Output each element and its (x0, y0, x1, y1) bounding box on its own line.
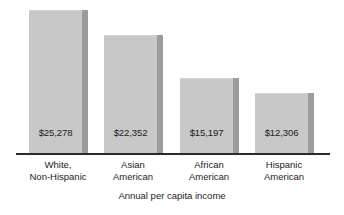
bar-hispanic-american: $12,306 (255, 93, 314, 154)
tick-line-1: Hispanic (266, 159, 302, 170)
x-tick-label-hispanic-american: Hispanic American (241, 159, 327, 182)
tick-line-1: Asian (121, 159, 145, 170)
bar-value-label: $15,197 (180, 127, 233, 138)
x-axis-title: Annual per capita income (0, 190, 344, 201)
bar-value-label: $12,306 (255, 127, 308, 138)
tick-line-2: Non-Hispanic (15, 171, 101, 183)
tick-line-2: American (90, 171, 176, 183)
bar-side-shadow (157, 35, 163, 154)
bar-side-shadow (308, 93, 314, 154)
bar-value-label: $22,352 (104, 127, 157, 138)
bar-african-american: $15,197 (180, 78, 239, 154)
tick-line-1: White, (45, 159, 72, 170)
bar-side-shadow (82, 10, 88, 154)
x-tick-label-asian-american: Asian American (90, 159, 176, 182)
bar-face (180, 78, 233, 155)
x-tick-label-white-non-hispanic: White, Non-Hispanic (15, 159, 101, 182)
bar-white-non-hispanic: $25,278 (29, 10, 88, 154)
bar-asian-american: $22,352 (104, 35, 163, 154)
bar-value-label: $25,278 (29, 127, 82, 138)
x-tick-label-african-american: African American (166, 159, 252, 182)
bar-face (255, 93, 308, 155)
tick-line-2: American (166, 171, 252, 183)
bar-side-shadow (233, 78, 239, 154)
tick-line-1: African (194, 159, 224, 170)
x-axis-line (16, 153, 330, 155)
bar-chart-figure: $25,278 $22,352 $15,197 $12,306 White, N… (0, 0, 344, 215)
plot-area: $25,278 $22,352 $15,197 $12,306 White, N… (0, 0, 344, 215)
tick-line-2: American (241, 171, 327, 183)
